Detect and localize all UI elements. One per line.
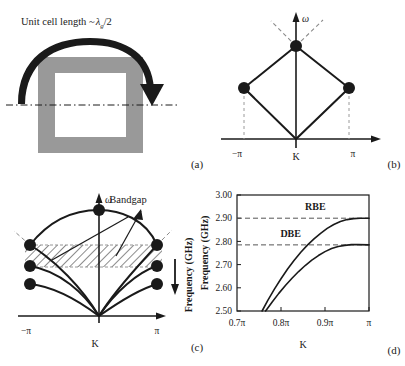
unit-cell-length-label: Unit cell length ~λg/2	[21, 16, 112, 30]
panel-d-frequency-plot: 2.502.602.702.802.903.00 0.7π0.8π0.9ππ R…	[197, 183, 394, 366]
ytick-label: 3.00	[215, 190, 232, 200]
xtick-minus-pi-c: −π	[21, 326, 31, 336]
threshold-lines	[237, 218, 369, 245]
xtick-label: 0.8π	[273, 318, 290, 328]
panel-a-unit-cell: Unit cell length ~λg/2	[0, 0, 197, 183]
ytick-label: 2.90	[215, 213, 232, 223]
omega-axis-label-c: ω	[105, 194, 112, 205]
frequency-axis-label-d: Frequency (GHz)	[199, 216, 211, 291]
axes-b	[221, 12, 381, 148]
xtick-label: 0.7π	[229, 318, 246, 328]
annotation-rbe: RBE	[305, 201, 326, 212]
annotation-dbe: DBE	[280, 228, 301, 239]
downward-trend-arrow	[171, 259, 179, 295]
panel-c-bandgap: Bandgap ω −π π K Frequency (GHz)	[0, 183, 197, 366]
ytick-label: 2.50	[215, 306, 232, 316]
caption-d: (d)	[197, 344, 405, 356]
frequency-axis-title-shared: Frequency (GHz)	[183, 238, 195, 313]
x-axis-ticks: 0.7π0.8π0.9ππ	[229, 307, 372, 328]
caption-b: (b)	[197, 158, 405, 170]
ytick-label: 2.70	[215, 260, 232, 270]
xtick-pi-c: π	[155, 326, 160, 336]
bandgap-arrowhead	[133, 209, 143, 220]
panel-b-dispersion: ω −π π K	[197, 0, 394, 183]
ytick-label: 2.60	[215, 283, 232, 293]
omega-axis-label-b: ω	[302, 13, 309, 24]
dispersion-curves	[262, 218, 369, 311]
ytick-label: 2.80	[215, 237, 232, 247]
plot-frame	[237, 195, 369, 311]
xtick-label: 0.9π	[317, 318, 334, 328]
unit-cell-length-text: Unit cell length ~	[21, 16, 95, 27]
bandgap-label: Bandgap	[109, 194, 146, 205]
curve-upper-branch-RBE	[262, 218, 369, 311]
xtick-label: π	[367, 318, 372, 328]
lambda-tail: /2	[104, 16, 112, 27]
